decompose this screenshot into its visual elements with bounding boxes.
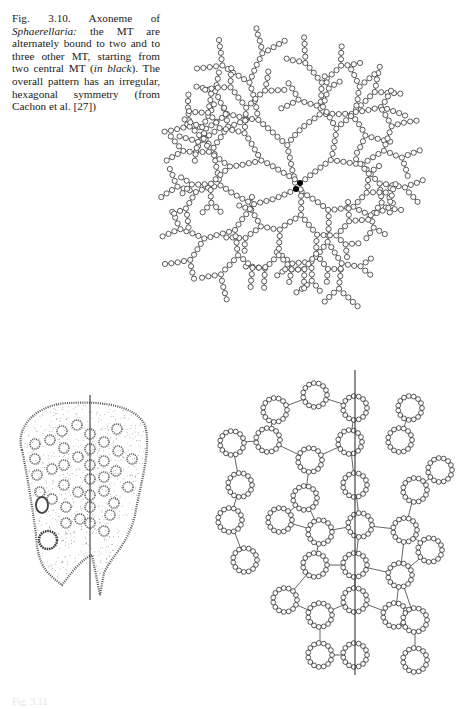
caption-emphasis: in black <box>94 62 132 74</box>
vacuole-1 <box>36 497 48 513</box>
hexagonal-ring-diagram <box>190 370 474 680</box>
vacuole-2 <box>39 531 57 549</box>
mt-rings <box>216 381 455 675</box>
stipple-fill <box>0 395 160 605</box>
mt-circles <box>159 26 426 309</box>
next-figure-caption-truncated: Fig. 3.11 <box>12 697 462 707</box>
axoneme-branching-diagram <box>140 8 474 348</box>
stippled-cell-graphic <box>0 395 160 635</box>
axopod-section-drawing <box>0 395 160 635</box>
figure-caption-3-10: Fig. 3.10. Axoneme of Sphaerellaria: the… <box>12 12 160 113</box>
central-mt-1 <box>297 180 303 186</box>
mt-ring-lattice-graphic <box>190 370 474 680</box>
central-mt-2 <box>293 186 299 192</box>
microtubule-tree-graphic <box>140 8 474 348</box>
caption-label: Fig. 3.10. Axoneme of <box>12 12 160 24</box>
caption-genus: Sphaerellaria: <box>12 25 77 37</box>
mt-profiles <box>30 420 137 536</box>
